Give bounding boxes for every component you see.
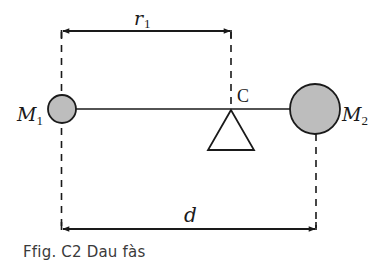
r1-label: r1 [134, 7, 151, 31]
center-of-mass-diagram: r1 M1 M2 C d [0, 0, 387, 271]
d-label: d [184, 203, 197, 227]
fulcrum-triangle [208, 110, 254, 150]
figure-caption: Ffig. C2 Dau fàs [23, 243, 145, 261]
center-of-mass-label: C [237, 86, 249, 106]
mass-m1 [48, 95, 76, 123]
m1-label: M1 [16, 103, 43, 128]
mass-m2 [290, 84, 340, 134]
m2-label: M2 [341, 103, 368, 128]
